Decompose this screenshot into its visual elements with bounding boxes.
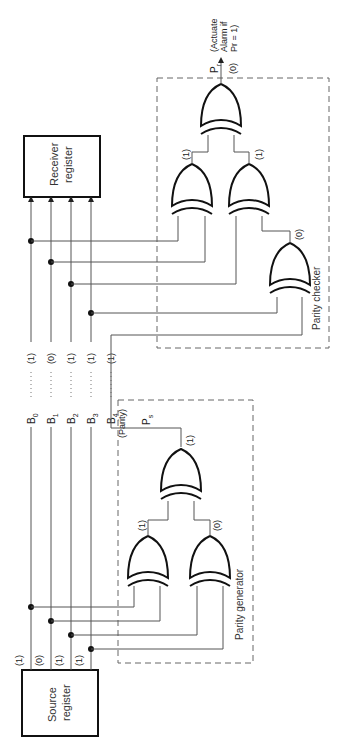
generator-xor-left	[128, 536, 168, 586]
source-register-label-1: Source	[46, 687, 58, 722]
source-register-label-2: register	[60, 684, 72, 721]
receiver-register: Receiver register	[24, 136, 100, 197]
checker-xor-right	[229, 164, 269, 214]
generator-xor-top	[161, 449, 201, 499]
generator-left-output-value: (1)	[137, 520, 147, 531]
source-value-b0: (1)	[14, 655, 24, 666]
source-value-b1: (0)	[34, 655, 44, 666]
checker-xor-left	[172, 164, 212, 214]
alarm-note-line-3: Pr = 1)	[229, 25, 239, 52]
checker-right-output-value: (1)	[254, 149, 264, 160]
checker-output-label: Pr	[209, 63, 222, 73]
generator-top-output-value: (1)	[185, 435, 195, 446]
parity-wire	[111, 297, 302, 447]
source-value-b3: (1)	[74, 655, 84, 666]
alarm-note-line-1: (Actuate	[209, 18, 219, 52]
parity-circuit-diagram: Receiver register Source register B0 B1 …	[0, 0, 345, 756]
checker-third-output-value: (0)	[294, 229, 304, 240]
checker-output-value: (0)	[228, 63, 238, 74]
checker-left-output-value: (1)	[181, 149, 191, 160]
line-value-b3: (1)	[86, 353, 96, 364]
generator-xor-right	[190, 536, 230, 586]
parity-checker-label: Parity checker	[311, 266, 322, 330]
receiver-register-label-2: register	[62, 146, 74, 183]
generator-output-label: Ps	[141, 414, 154, 425]
checker-xor-third	[270, 243, 310, 293]
source-values: (1) (0) (1) (1)	[14, 655, 84, 666]
receiver-register-label-1: Receiver	[48, 142, 60, 186]
line-value-b1: (0)	[46, 353, 56, 364]
source-value-b2: (1)	[54, 655, 64, 666]
parity-generator: Parity generator (1) (0) (1) Ps	[28, 400, 253, 663]
alarm-note-line-2: Alarm if	[219, 21, 229, 52]
line-value-b0: (1)	[26, 353, 36, 364]
generator-right-output-value: (0)	[212, 520, 222, 531]
parity-generator-label: Parity generator	[234, 568, 245, 640]
line-value-b2: (1)	[66, 353, 76, 364]
checker-xor-top	[201, 84, 241, 134]
bit-wires	[31, 199, 91, 670]
source-register: Source register	[22, 670, 98, 736]
